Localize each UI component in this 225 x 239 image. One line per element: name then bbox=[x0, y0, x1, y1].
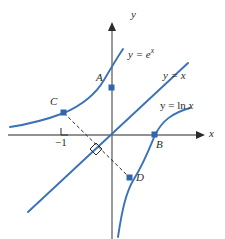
point-marker-C bbox=[61, 110, 67, 116]
curve-label-logarithm-prefix: y = ln bbox=[160, 99, 189, 111]
curve-label-exponential: y = ex bbox=[128, 47, 154, 60]
point-label-B: B bbox=[156, 139, 163, 150]
curve-label-logarithm: y = ln x bbox=[160, 100, 193, 111]
point-marker-D bbox=[127, 175, 133, 181]
point-marker-B bbox=[152, 132, 158, 138]
graph-canvas bbox=[0, 0, 225, 239]
math-figure: y x −1 y = ex y = x y = ln x A B C D bbox=[0, 0, 225, 239]
axes-group bbox=[8, 22, 205, 239]
point-marker-A bbox=[109, 85, 115, 91]
curve-label-exponential-base: y = e bbox=[128, 48, 151, 60]
curve-identity bbox=[28, 63, 188, 212]
x-axis-arrowhead bbox=[196, 131, 205, 139]
curve-logarithm bbox=[118, 108, 190, 237]
x-tick-label-minus-one: −1 bbox=[55, 137, 67, 148]
x-axis-label: x bbox=[209, 128, 214, 139]
curve-label-exponential-exponent: x bbox=[151, 46, 154, 55]
y-axis-arrowhead bbox=[108, 22, 116, 31]
curve-label-identity: y = x bbox=[163, 70, 186, 81]
point-label-C: C bbox=[50, 96, 57, 107]
point-label-A: A bbox=[96, 72, 103, 83]
right-angle-marker-x-axis bbox=[61, 128, 68, 135]
y-axis-label: y bbox=[131, 9, 136, 20]
point-label-D: D bbox=[136, 172, 144, 183]
curve-label-logarithm-arg: x bbox=[189, 99, 194, 111]
